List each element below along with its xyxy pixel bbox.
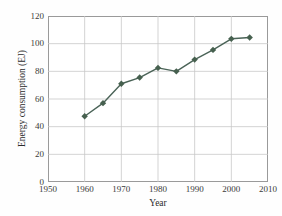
- x-tick-label: 1980: [140, 184, 176, 194]
- x-tick-label: 1950: [30, 184, 66, 194]
- data-point-marker: [136, 74, 142, 80]
- data-point-marker: [246, 34, 252, 40]
- data-point-marker: [228, 36, 234, 42]
- cropped-title-remnant: [40, 0, 250, 5]
- y-tick-label: 40: [0, 122, 44, 131]
- data-point-marker: [155, 65, 161, 71]
- y-tick-label: 120: [0, 12, 44, 21]
- data-line: [85, 37, 250, 116]
- x-tick-label: 2000: [213, 184, 249, 194]
- energy-consumption-line-chart: Energy consumption (EJ) 020406080100120 …: [0, 0, 282, 216]
- x-tick-label: 1970: [103, 184, 139, 194]
- x-axis-label: Year: [48, 198, 268, 209]
- x-tick-label: 2010: [250, 184, 282, 194]
- x-axis-tick-labels: 1950196019701980199020002010: [48, 184, 268, 198]
- y-tick-label: 60: [0, 95, 44, 104]
- y-axis-tick-labels: 020406080100120: [0, 16, 44, 182]
- y-tick-label: 80: [0, 67, 44, 76]
- x-tick-label: 1960: [67, 184, 103, 194]
- data-series-layer: [48, 16, 268, 182]
- x-tick-label: 1990: [177, 184, 213, 194]
- y-tick-label: 20: [0, 150, 44, 159]
- y-tick-label: 100: [0, 39, 44, 48]
- data-point-marker: [210, 47, 216, 53]
